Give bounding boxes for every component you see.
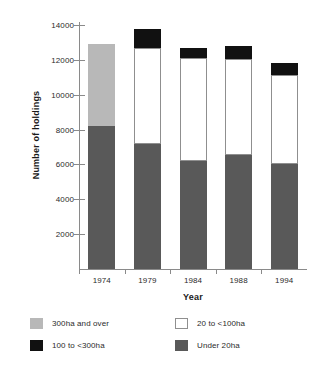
- x-axis-tick-label: 1979: [127, 276, 167, 285]
- legend-item-over300[interactable]: 300ha and over: [30, 318, 165, 329]
- bar-segment-t20to100[interactable]: [225, 59, 252, 155]
- bar-segment-under20[interactable]: [88, 126, 115, 269]
- legend-item-under20[interactable]: Under 20ha: [175, 340, 310, 351]
- x-axis-tick-label: 1984: [173, 276, 213, 285]
- bar-segment-t20to100[interactable]: [271, 75, 298, 164]
- legend-label: Under 20ha: [197, 341, 240, 350]
- y-axis-title: Number of holdings: [31, 75, 41, 195]
- x-axis-tick-label: 1988: [219, 276, 259, 285]
- x-axis-tick: [170, 269, 171, 274]
- bar-segment-under20[interactable]: [180, 161, 207, 269]
- x-axis-tick: [261, 269, 262, 274]
- x-axis-line: [79, 269, 307, 270]
- legend-swatch-over300: [30, 318, 43, 329]
- bar-segment-under20[interactable]: [134, 144, 161, 269]
- x-axis-tick: [125, 269, 126, 274]
- legend-swatch-under20: [175, 340, 188, 351]
- legend-label: 300ha and over: [52, 319, 109, 328]
- chart-figure: 2000400060008000100001200014000 19741979…: [0, 0, 325, 366]
- x-axis-tick-label: 1994: [264, 276, 304, 285]
- bar-segment-over300[interactable]: [88, 44, 115, 126]
- bar-segment-t100to300[interactable]: [225, 46, 252, 59]
- bar-segment-t20to100[interactable]: [134, 48, 161, 145]
- chart-legend: 300ha and over20 to <100ha100 to <300haU…: [30, 318, 310, 351]
- legend-item-t20to100[interactable]: 20 to <100ha: [175, 318, 310, 329]
- bar-segment-t100to300[interactable]: [134, 29, 161, 47]
- bar-segment-under20[interactable]: [225, 155, 252, 269]
- x-axis-tick-label: 1974: [82, 276, 122, 285]
- bar-segment-t100to300[interactable]: [180, 48, 207, 58]
- y-axis-tick-label: 14000: [28, 21, 74, 30]
- y-axis-tick-label: 4000: [28, 195, 74, 204]
- x-axis-tick: [216, 269, 217, 274]
- bar-segment-t100to300[interactable]: [271, 63, 298, 74]
- y-axis-tick-label: 2000: [28, 230, 74, 239]
- legend-label: 100 to <300ha: [52, 341, 105, 350]
- legend-swatch-t100to300: [30, 340, 43, 351]
- legend-item-t100to300[interactable]: 100 to <300ha: [30, 340, 165, 351]
- legend-swatch-t20to100: [175, 318, 188, 329]
- plot-area: [79, 25, 307, 269]
- bar-segment-t20to100[interactable]: [180, 58, 207, 161]
- y-axis-title-host: Number of holdings: [18, 60, 32, 210]
- legend-label: 20 to <100ha: [197, 319, 245, 328]
- x-axis-tick: [79, 269, 80, 274]
- bar-segment-under20[interactable]: [271, 164, 298, 269]
- y-axis-tick-label: 12000: [28, 55, 74, 64]
- x-axis-title: Year: [79, 292, 307, 302]
